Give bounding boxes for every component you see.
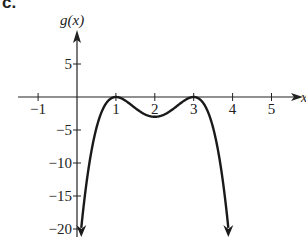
y-axis-label: g(x) [60, 12, 84, 29]
y-tick-label: −10 [49, 155, 72, 171]
x-tick-label: 4 [229, 101, 237, 117]
x-tick-label: 2 [151, 101, 159, 117]
y-tick-label: 5 [65, 56, 73, 72]
x-tick-label: 3 [190, 101, 198, 117]
y-tick-label: −15 [49, 188, 72, 204]
x-axis-label: x [300, 90, 306, 105]
chart-canvas: c.xg(x)−1123455−5−10−15−20 [0, 0, 306, 239]
x-tick-label: 1 [112, 101, 120, 117]
curve-g [81, 97, 228, 228]
y-tick-label: −20 [49, 221, 72, 237]
y-tick-label: −5 [56, 122, 72, 138]
x-tick-label: −1 [30, 101, 46, 117]
x-tick-label: 5 [268, 101, 276, 117]
panel-label: c. [2, 0, 16, 12]
